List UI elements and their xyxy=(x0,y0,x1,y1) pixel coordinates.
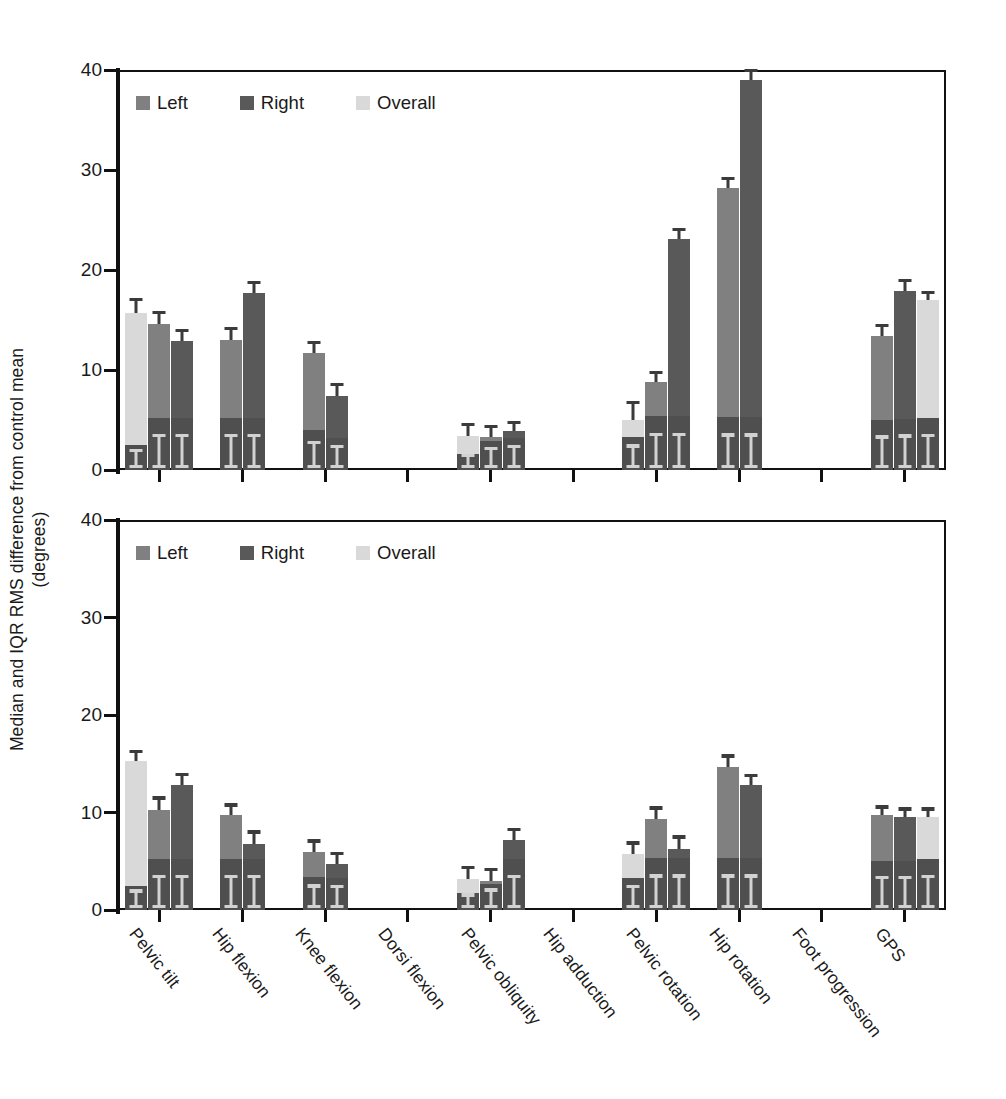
x-tick-mark xyxy=(158,910,161,922)
error-bar-lower-cap xyxy=(721,433,734,437)
error-bar-lower xyxy=(229,437,232,466)
error-bar-lower-cap xyxy=(224,434,237,438)
error-bar-upper-cap xyxy=(721,177,734,181)
error-bar-lower xyxy=(158,437,161,466)
legend-item-left[interactable]: Left xyxy=(136,542,188,564)
x-axis-label: Pelvic obliquity xyxy=(456,924,545,1029)
error-bar-lower-cap xyxy=(307,441,320,445)
error-bar-lower-cap-bottom xyxy=(130,905,143,909)
error-bar-lower-cap-bottom xyxy=(721,465,734,469)
error-bar-upper-cap xyxy=(875,805,888,809)
bar-right xyxy=(171,785,193,910)
y-tick-label: 20 xyxy=(40,704,102,726)
bar-right xyxy=(740,785,762,910)
x-tick-mark xyxy=(572,910,575,922)
x-axis-label: GPS xyxy=(870,924,909,966)
error-bar-lower-cap xyxy=(627,885,640,889)
error-bar-lower-cap xyxy=(875,435,888,439)
legend-bottom: LeftRightOverall xyxy=(136,542,436,564)
error-bar-lower-cap xyxy=(176,875,189,879)
y-tick-label: 10 xyxy=(40,359,102,381)
legend-swatch-icon xyxy=(136,546,150,560)
bar-right xyxy=(894,291,916,470)
error-bar-lower xyxy=(252,437,255,466)
legend-label: Overall xyxy=(377,92,436,114)
error-bar-lower-cap-bottom xyxy=(224,905,237,909)
error-bar-lower-cap-bottom xyxy=(484,465,497,469)
error-bar-lower-cap xyxy=(921,434,934,438)
error-bar-upper-cap xyxy=(673,835,686,839)
error-bar-lower xyxy=(335,888,338,906)
bar-right xyxy=(668,239,690,470)
error-bar-lower-cap-bottom xyxy=(898,465,911,469)
error-bar-lower-cap-bottom xyxy=(875,465,888,469)
error-bar-lower-cap xyxy=(898,434,911,438)
error-bar-upper-cap xyxy=(461,866,474,870)
error-bar-lower-cap-bottom xyxy=(176,465,189,469)
error-bar-upper-cap xyxy=(176,329,189,333)
error-bar-lower-cap xyxy=(721,874,734,878)
error-bar-lower xyxy=(678,878,681,906)
legend-item-right[interactable]: Right xyxy=(240,542,304,564)
x-tick-mark xyxy=(820,470,823,482)
error-bar-lower-cap-bottom xyxy=(627,905,640,909)
error-bar-lower-cap xyxy=(898,876,911,880)
error-bar-lower xyxy=(312,888,315,906)
y-tick-label: 0 xyxy=(40,459,102,481)
error-bar-upper-cap xyxy=(507,421,520,425)
x-axis-label: Knee flexion xyxy=(290,924,367,1014)
error-bar-lower-cap-bottom xyxy=(307,905,320,909)
y-tick-label: 20 xyxy=(40,259,102,281)
error-bar-lower xyxy=(312,444,315,466)
error-bar-lower xyxy=(903,879,906,906)
error-bar-lower xyxy=(726,437,729,466)
legend-item-right[interactable]: Right xyxy=(240,92,304,114)
error-bar-lower-cap-bottom xyxy=(921,905,934,909)
error-bar-lower-cap-bottom xyxy=(650,905,663,909)
legend-label: Right xyxy=(261,92,304,114)
legend-item-left[interactable]: Left xyxy=(136,92,188,114)
error-bar-upper-cap xyxy=(875,324,888,328)
bar-overall xyxy=(622,854,644,910)
error-bar-upper-cap xyxy=(330,852,343,856)
error-bar-lower-cap xyxy=(130,889,143,893)
error-bar-upper-cap xyxy=(898,807,911,811)
bar-left xyxy=(303,852,325,910)
error-bar-lower-cap-bottom xyxy=(898,905,911,909)
error-bar-lower xyxy=(749,878,752,906)
error-bar-lower-cap xyxy=(130,449,143,453)
legend-swatch-icon xyxy=(240,546,254,560)
error-bar-lower-cap-bottom xyxy=(627,465,640,469)
bar-left xyxy=(645,819,667,910)
error-bar-upper-cap xyxy=(721,754,734,758)
legend-label: Left xyxy=(157,542,188,564)
y-tick-label: 10 xyxy=(40,802,102,824)
error-bar-lower-cap xyxy=(673,433,686,437)
error-bar-lower-cap-bottom xyxy=(153,905,166,909)
x-tick-mark xyxy=(158,470,161,482)
y-tick-label: 30 xyxy=(40,607,102,629)
y-axis-title-line2: (degrees) xyxy=(29,348,51,751)
bar-left xyxy=(480,881,502,910)
error-bar-lower-cap-bottom xyxy=(650,465,663,469)
error-bar-upper-cap xyxy=(130,298,143,302)
legend-item-overall[interactable]: Overall xyxy=(356,92,436,114)
error-bar-lower-cap xyxy=(461,893,474,897)
bar-left xyxy=(871,815,893,910)
error-bar-lower-cap-bottom xyxy=(507,465,520,469)
error-bar-lower xyxy=(655,878,658,906)
error-bar-lower xyxy=(632,888,635,906)
error-bar-lower xyxy=(335,448,338,466)
error-bar-lower-cap xyxy=(176,434,189,438)
legend-item-overall[interactable]: Overall xyxy=(356,542,436,564)
y-tick-label: 30 xyxy=(40,159,102,181)
bar-left xyxy=(220,340,242,470)
bar-left xyxy=(148,324,170,470)
bar-left xyxy=(717,188,739,470)
x-tick-mark xyxy=(406,470,409,482)
x-axis-label: Hip adduction xyxy=(539,924,622,1022)
error-bar-upper-cap xyxy=(650,371,663,375)
error-bar-upper-cap xyxy=(744,774,757,778)
error-bar-lower xyxy=(229,878,232,906)
error-bar-lower xyxy=(632,448,635,466)
